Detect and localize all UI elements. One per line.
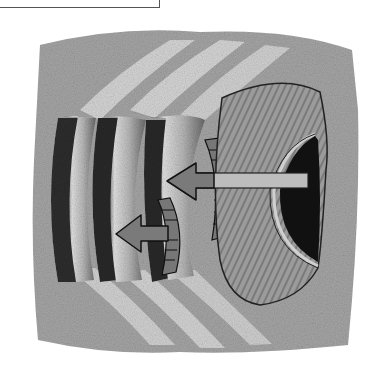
scallop-sand-illustration xyxy=(0,0,369,379)
scallop-shell xyxy=(215,83,327,305)
